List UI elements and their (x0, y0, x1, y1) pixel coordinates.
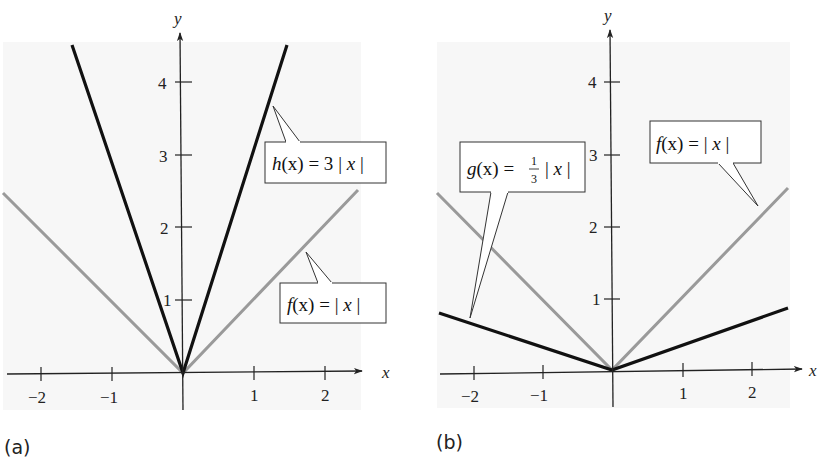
y-tick-label: 1 (592, 290, 601, 309)
y-axis-label-a: y (172, 9, 182, 28)
panel-label-b: (b) (436, 431, 463, 453)
x-axis-label-a: x (381, 363, 390, 382)
x-axis-label-b: x (808, 361, 817, 380)
y-tick-label: 3 (589, 146, 598, 165)
x-tick-label: −1 (100, 388, 118, 407)
callout-g-text: g(x) = (467, 158, 514, 180)
fraction-denominator: 3 (531, 172, 537, 186)
y-tick-label: 2 (160, 219, 169, 238)
panel-b: −2 −1 1 2 1 2 3 4 y x g(x) = 1 3 | x | (437, 6, 817, 408)
x-tick-label: 1 (679, 384, 688, 403)
callout-f-b-text: f(x) = | x | (656, 133, 729, 155)
y-tick-label: 4 (158, 74, 167, 93)
x-tick-label: 2 (321, 386, 330, 405)
fraction-numerator: 1 (531, 154, 537, 168)
x-tick-label: −2 (461, 387, 479, 406)
y-tick-label: 2 (589, 218, 598, 237)
y-tick-label: 4 (588, 73, 597, 92)
callout-g-abs: | x | (545, 158, 571, 179)
y-tick-label: 3 (159, 147, 168, 166)
x-tick-label: −1 (530, 386, 548, 405)
callout-f-a-text: f(x) = | x | (287, 294, 360, 316)
callout-h-text: h(x) = 3 | x | (272, 153, 364, 175)
y-tick-label: 1 (163, 291, 172, 310)
figure: −2 −1 1 2 1 2 3 4 y x h(x) = 3 | x | (0, 0, 819, 471)
x-tick-label: 2 (748, 383, 757, 402)
y-axis-label-b: y (602, 6, 612, 25)
panel-label-a: (a) (4, 436, 30, 458)
x-tick-label: −2 (28, 388, 46, 407)
x-tick-label: 1 (250, 386, 259, 405)
panel-a: −2 −1 1 2 1 2 3 4 y x h(x) = 3 | x | (3, 9, 390, 410)
